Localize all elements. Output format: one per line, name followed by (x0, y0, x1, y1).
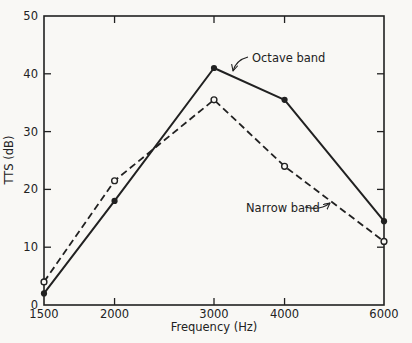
data-point-filled-circle (211, 65, 217, 71)
annotation-label-narrow-band: Narrow band (246, 201, 320, 215)
series-line-narrow-band (44, 100, 384, 282)
chart-figure: Frequency (Hz) TTS (dB) 0102030405015002… (0, 0, 412, 343)
x-tick-label: 2000 (100, 307, 129, 321)
data-point-open-circle (112, 178, 118, 184)
data-point-open-circle (282, 163, 288, 169)
x-tick-label: 6000 (369, 307, 398, 321)
y-tick-label: 10 (23, 240, 38, 254)
chart-svg: Frequency (Hz) TTS (dB) 0102030405015002… (0, 0, 412, 343)
y-tick-label: 30 (23, 125, 38, 139)
data-point-filled-circle (381, 218, 387, 224)
annotation-label-octave-band: Octave band (252, 51, 325, 65)
data-point-filled-circle (281, 97, 287, 103)
y-axis-title: TTS (dB) (2, 136, 16, 186)
y-tick-label: 50 (23, 9, 38, 23)
x-tick-label: 3000 (199, 307, 228, 321)
y-tick-label: 20 (23, 182, 38, 196)
x-axis-title: Frequency (Hz) (171, 320, 258, 334)
y-tick-label: 40 (23, 67, 38, 81)
x-tick-label: 4000 (270, 307, 299, 321)
data-point-filled-circle (41, 290, 47, 296)
data-point-filled-circle (111, 198, 117, 204)
data-point-open-circle (381, 239, 387, 245)
data-point-open-circle (211, 97, 217, 103)
data-point-open-circle (41, 279, 47, 285)
x-tick-label: 1500 (29, 307, 58, 321)
annotation-arrow-octave-band (233, 57, 248, 71)
